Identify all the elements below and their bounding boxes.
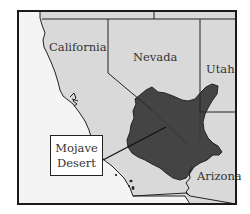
mojave-desert-callout: Mojave Desert [50,135,103,176]
callout-line-2: Desert [57,156,96,171]
map: California Nevada Utah Arizona Mojave De… [0,0,250,214]
label-california: California [49,40,107,54]
label-utah: Utah [206,62,235,76]
map-svg: California Nevada Utah Arizona [0,0,250,214]
label-arizona: Arizona [196,169,242,183]
label-nevada: Nevada [133,50,178,64]
callout-line-1: Mojave [55,141,97,156]
